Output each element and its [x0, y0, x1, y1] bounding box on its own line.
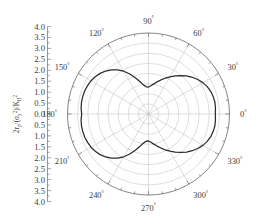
angle-label-60: 60° — [193, 28, 204, 38]
y-tick-label: 3.0 — [34, 175, 45, 185]
y-tick-label: 1.5 — [34, 76, 45, 86]
y-axis-title: 2rp/(σy2)/KII2 — [12, 94, 22, 133]
ring-tick — [86, 165, 88, 167]
ring-tick — [222, 86, 224, 87]
y-tick-label: 1.0 — [34, 131, 45, 141]
y-tick-label: 3.0 — [34, 43, 45, 53]
y-tick-label: 4.0 — [34, 22, 45, 32]
y-tick-label: 2.0 — [34, 153, 45, 163]
ring-tick — [96, 52, 98, 54]
y-tick-label: 0.5 — [34, 120, 45, 130]
y-tick-label: 3.5 — [34, 186, 45, 196]
ring-tick — [108, 181, 110, 184]
ring-tick — [78, 153, 81, 155]
ring-tick — [187, 181, 189, 184]
y-tick-label: 2.5 — [34, 164, 45, 174]
grid-spoke — [149, 74, 219, 115]
y-tick-label: 1.5 — [34, 142, 45, 152]
ring-tick — [121, 188, 122, 190]
ring-tick — [222, 141, 224, 142]
angle-label-330: 330° — [227, 156, 242, 166]
angle-label-90: 90° — [143, 15, 154, 25]
polar-figure: 4.03.53.02.52.01.51.00.50.00.51.01.52.02… — [0, 0, 257, 224]
polar-plot-svg: 4.03.53.02.52.01.51.00.50.00.51.01.52.02… — [0, 0, 257, 224]
polar-spokes — [68, 33, 230, 195]
grid-spoke — [149, 44, 190, 114]
y-tick-label: 0.5 — [34, 98, 45, 108]
y-tick-label: 2.0 — [34, 65, 45, 75]
y-tick-label: 3.5 — [34, 32, 45, 42]
ring-tick — [175, 188, 176, 190]
angle-label-150: 150° — [55, 62, 70, 72]
angle-label-180: 180° — [42, 109, 57, 119]
ring-tick — [209, 62, 211, 64]
ring-tick — [209, 165, 211, 167]
ring-tick — [215, 153, 218, 155]
ring-tick — [96, 174, 98, 176]
angle-label-300: 300° — [193, 190, 208, 200]
grid-spoke — [108, 44, 149, 114]
angle-label-0: 0° — [240, 109, 246, 119]
grid-spoke — [149, 114, 190, 184]
y-tick-label: 1.0 — [34, 87, 45, 97]
ring-tick — [72, 141, 74, 142]
ring-tick — [72, 86, 74, 87]
ring-tick — [175, 38, 176, 40]
grid-spoke — [149, 114, 219, 155]
ring-tick — [187, 44, 189, 47]
angle-label-240: 240° — [89, 190, 104, 200]
angle-label-270: 270° — [141, 202, 156, 212]
ring-tick — [78, 74, 81, 76]
y-tick-label: 2.5 — [34, 54, 45, 64]
ring-tick — [121, 38, 122, 40]
angle-label-30: 30° — [227, 62, 238, 72]
ring-tick — [108, 44, 110, 47]
ring-tick — [199, 52, 201, 54]
ring-tick — [215, 74, 218, 76]
y-tick-label: 4.0 — [34, 197, 45, 207]
angle-label-120: 120° — [89, 28, 104, 38]
grid-spoke — [108, 114, 149, 184]
ring-tick — [86, 62, 88, 64]
angle-label-210: 210° — [55, 156, 70, 166]
ring-tick — [199, 174, 201, 176]
